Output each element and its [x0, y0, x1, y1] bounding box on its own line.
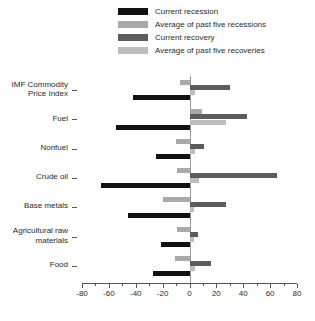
bar	[128, 213, 190, 218]
x-axis-tick	[109, 284, 110, 288]
bar	[190, 178, 199, 183]
category-tick	[72, 266, 77, 267]
x-axis-tick-label: 80	[284, 289, 310, 298]
x-axis-minor-tick	[176, 284, 177, 286]
commodity-price-chart: Current recessionAverage of past five re…	[0, 0, 315, 321]
bar	[190, 207, 194, 212]
category-label: IMF Commodity Price Index	[2, 80, 68, 99]
x-axis-minor-tick	[257, 284, 258, 286]
bar	[190, 85, 230, 90]
bar	[177, 227, 189, 232]
x-axis-tick	[297, 284, 298, 288]
bar	[177, 168, 189, 173]
bar	[190, 202, 226, 207]
bar	[176, 139, 189, 144]
x-axis-minor-tick	[122, 284, 123, 286]
x-axis-minor-tick	[284, 284, 285, 286]
category-tick	[72, 237, 77, 238]
bar	[163, 197, 190, 202]
x-axis-tick-label: -40	[123, 289, 149, 298]
bar	[116, 125, 190, 130]
x-axis-tick-label: -60	[96, 289, 122, 298]
category-tick	[72, 149, 77, 150]
bar	[133, 95, 189, 100]
category-tick	[72, 178, 77, 179]
bar	[101, 183, 190, 188]
x-axis-tick-label: 0	[177, 289, 203, 298]
x-axis-minor-tick	[230, 284, 231, 286]
bar	[190, 237, 194, 242]
bar	[175, 256, 190, 261]
category-label: Crude oil	[2, 172, 68, 182]
category-tick	[72, 207, 77, 208]
bar	[190, 173, 277, 178]
x-axis-tick	[216, 284, 217, 288]
x-axis-minor-tick	[149, 284, 150, 286]
x-axis-tick	[163, 284, 164, 288]
category-label: Fuel	[2, 114, 68, 124]
bar	[190, 149, 195, 154]
x-axis-tick	[270, 284, 271, 288]
bar	[153, 271, 189, 276]
x-axis-tick-label: -80	[69, 289, 95, 298]
category-label: Base metals	[2, 201, 68, 211]
x-axis-tick-label: 40	[230, 289, 256, 298]
category-tick	[72, 90, 77, 91]
category-label: Agricultural raw materials	[2, 226, 68, 245]
x-axis-tick	[136, 284, 137, 288]
bar	[190, 90, 195, 95]
category-tick	[72, 119, 77, 120]
category-label: Food	[2, 260, 68, 270]
x-axis-tick	[243, 284, 244, 288]
x-axis-minor-tick	[203, 284, 204, 286]
x-axis-minor-tick	[95, 284, 96, 286]
bar	[190, 266, 195, 271]
x-axis-tick	[82, 284, 83, 288]
bar	[180, 80, 189, 85]
x-axis-tick	[190, 284, 191, 288]
category-label: Nonfuel	[2, 143, 68, 153]
plot-area: IMF Commodity Price IndexFuelNonfuelCrud…	[0, 0, 315, 321]
x-axis-tick-label: 60	[257, 289, 283, 298]
bar	[161, 242, 189, 247]
bar	[156, 154, 190, 159]
bar	[190, 120, 226, 125]
x-axis-tick-label: -20	[150, 289, 176, 298]
x-axis-tick-label: 20	[203, 289, 229, 298]
